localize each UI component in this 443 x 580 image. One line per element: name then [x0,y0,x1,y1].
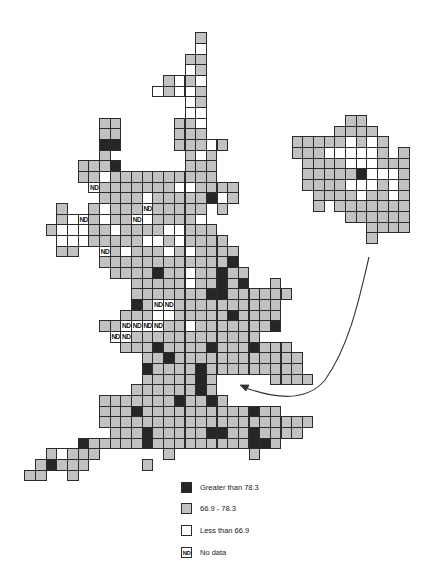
no-data-swatch-icon [181,547,192,558]
gray-swatch-icon [181,503,192,514]
inset-pointer-arrow [0,0,443,580]
legend-label: Less than 66.9 [200,526,249,535]
map-canvas [0,0,443,580]
white-swatch-icon [181,525,192,536]
dark-swatch-icon [181,482,192,493]
legend-item-high: Greater than 78.3 [181,481,259,493]
legend-item-no-data: No data [181,546,226,558]
legend-label: No data [200,548,226,557]
legend-label: 66.9 - 78.3 [200,504,236,513]
legend-item-mid: 66.9 - 78.3 [181,502,236,514]
legend-label: Greater than 78.3 [200,483,259,492]
legend-item-low: Less than 66.9 [181,524,249,536]
